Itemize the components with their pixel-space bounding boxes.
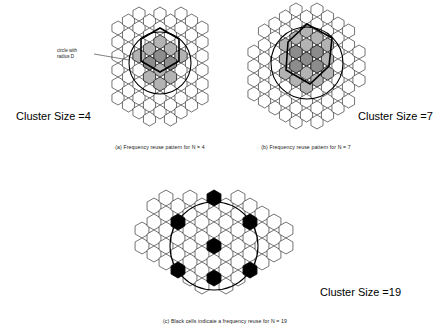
- figure-a-caption: (a) Frequency reuse pattern for N = 4: [88, 144, 232, 150]
- figure-a-hex-grid: [96, 10, 224, 134]
- figure-c-caption: (c) Black cells indicate a frequency reu…: [130, 318, 320, 324]
- figure-b-svg: [240, 6, 374, 136]
- figure-a-annotation: circle with radius D: [57, 48, 77, 59]
- cluster-size-label-b: Cluster Size =7: [358, 110, 433, 122]
- figure-c-svg: [130, 186, 310, 306]
- figure-c-hex-grid: [130, 186, 310, 306]
- cluster-size-label-a: Cluster Size =4: [16, 110, 91, 122]
- annotation-line-1: circle with: [57, 48, 77, 54]
- figure-b-caption: (b) Frequency reuse pattern for N = 7: [230, 144, 382, 150]
- figure-a-svg: [96, 10, 224, 134]
- annotation-line-2: radius D: [57, 54, 77, 60]
- cluster-size-label-c: Cluster Size =19: [320, 286, 401, 298]
- figure-b-hex-grid: [240, 6, 374, 136]
